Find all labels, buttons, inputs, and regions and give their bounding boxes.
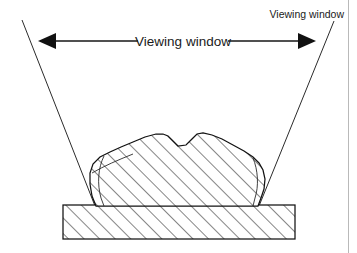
corner-viewing-window-label: Viewing window [269,8,344,20]
base-block-hatch [63,205,295,239]
viewing-window-diagram: Viewing window Viewing window [0,0,357,253]
main-viewing-window-label: Viewing window [135,34,231,49]
figure-root: Viewing window Viewing window [0,0,357,253]
right-sight-line [259,21,334,206]
arrow-head-left [38,33,56,49]
base-block-group [63,205,295,239]
left-sight-line [22,20,95,206]
arrow-head-right [298,33,316,49]
